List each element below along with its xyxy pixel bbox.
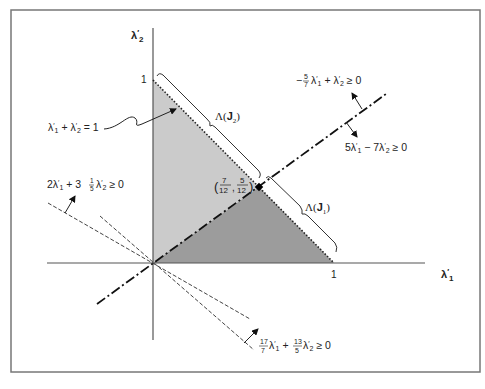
svg-text:): ) (249, 179, 253, 194)
ineq-lower-label: 5λ′1 − 7λ′2 ≥ 0 (345, 141, 407, 154)
svg-text:17: 17 (260, 338, 268, 345)
svg-text:7: 7 (261, 347, 265, 354)
svg-text:7: 7 (222, 176, 227, 185)
svg-text:13: 13 (294, 338, 302, 345)
svg-text:λ′2 ≥ 0: λ′2 ≥ 0 (303, 339, 331, 352)
svg-text:1: 1 (90, 177, 94, 184)
svg-text:−: − (296, 74, 302, 86)
svg-text:λ′1 +: λ′1 + (269, 339, 289, 352)
svg-text:7: 7 (304, 81, 308, 88)
svg-text:λ′2 ≥ 0: λ′2 ≥ 0 (96, 178, 124, 191)
svg-text:5: 5 (295, 347, 299, 354)
x-tick-1: 1 (331, 269, 337, 280)
svg-text:12: 12 (219, 186, 228, 195)
y-tick-1: 1 (141, 74, 147, 85)
diagram-canvas: λ′2 λ′1 1 1 λ′1 + λ′2 = 1 Λ(J2) Λ(J1) ( … (0, 0, 485, 389)
svg-text:5: 5 (240, 176, 245, 185)
svg-text:2λ′1 + 3: 2λ′1 + 3 (47, 178, 81, 191)
ineq-upper-label: − 5 7 λ′1 + λ′2 ≥ 0 (296, 73, 362, 88)
svg-text:5: 5 (90, 185, 94, 192)
svg-text:5: 5 (304, 73, 308, 80)
svg-text:,: , (232, 182, 235, 193)
svg-text:12: 12 (237, 186, 246, 195)
